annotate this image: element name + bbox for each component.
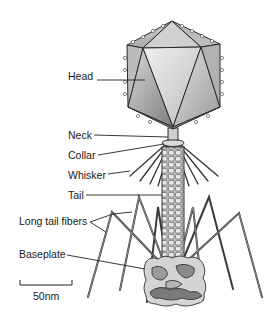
baseplate: [144, 256, 206, 306]
label-head: Head: [68, 70, 93, 82]
tail: [162, 147, 184, 262]
label-baseplate: Baseplate: [19, 248, 66, 260]
label-neck: Neck: [68, 129, 92, 141]
collar: [162, 140, 184, 147]
label-whisker: Whisker: [68, 169, 106, 181]
label-collar: Collar: [68, 149, 95, 161]
scale-bar-label: 50nm: [33, 290, 59, 302]
neck: [168, 128, 178, 140]
label-tail: Tail: [68, 189, 84, 201]
scale-bar: [20, 280, 72, 285]
phage-illustration: [0, 0, 274, 312]
phage-diagram: Head Neck Collar Whisker Tail Long tail …: [0, 0, 274, 312]
label-long-tail-fibers: Long tail fibers: [19, 215, 87, 227]
head: [127, 21, 220, 129]
